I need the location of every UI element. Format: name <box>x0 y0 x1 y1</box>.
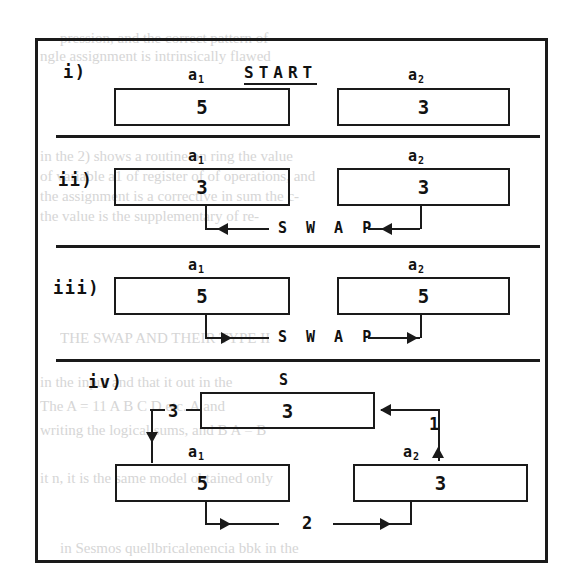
step2-arrowhead-right <box>380 518 391 530</box>
swap-iii-caption: S W A P <box>278 328 376 346</box>
var-label-iii-a2-base: a <box>408 256 418 274</box>
var-label-ii-a1-base: a <box>188 147 198 165</box>
panel-label-iv: iv) <box>88 372 123 392</box>
box-iv-a2: 3 <box>353 464 528 502</box>
step2-vline-left <box>205 502 207 524</box>
box-i-a1-value: 5 <box>116 96 288 118</box>
var-label-ii-a1-sub: 1 <box>198 155 205 166</box>
var-label-iv-S: S <box>279 371 289 389</box>
diagram-stage: i) a1 START a2 5 3 ii) a1 a2 3 3 S W A P… <box>0 0 579 587</box>
swap-ii-left-run <box>205 228 269 230</box>
box-ii-a2-value: 3 <box>339 176 508 198</box>
swap-iii-left-drop <box>205 315 207 338</box>
var-label-iv-a1: a1 <box>188 443 204 461</box>
var-label-ii-a2-sub: 2 <box>418 155 425 166</box>
var-label-i-a2-base: a <box>408 66 418 84</box>
swap-iii-right-drop <box>420 315 422 338</box>
panel-label-ii: ii) <box>58 170 93 190</box>
var-label-iii-a1: a1 <box>188 256 204 274</box>
panel-label-i: i) <box>63 62 86 82</box>
step3-hline-near-S <box>186 409 201 411</box>
box-iii-a2-value: 5 <box>339 285 508 307</box>
swap-ii-left-drop <box>205 206 207 229</box>
step-number-1: 1 <box>429 414 439 434</box>
box-iv-a1: 5 <box>115 464 290 502</box>
step2-vline-right <box>410 502 412 524</box>
var-label-iii-a2-sub: 2 <box>418 264 425 275</box>
box-ii-a2: 3 <box>337 168 510 206</box>
swap-iii-right-arrowhead <box>407 332 418 344</box>
var-label-iv-S-base: S <box>279 371 289 389</box>
box-ii-a1: 3 <box>114 168 290 206</box>
box-i-a2: 3 <box>337 88 510 126</box>
var-label-iv-a2: a2 <box>403 443 419 461</box>
var-label-iii-a1-sub: 1 <box>198 264 205 275</box>
box-iii-a1: 5 <box>114 277 290 315</box>
divider-i-ii <box>56 135 540 138</box>
var-label-i-a2: a2 <box>408 66 424 84</box>
box-iii-a1-value: 5 <box>116 285 288 307</box>
swap-ii-right-drop <box>420 206 422 229</box>
step1-arrowhead-left <box>380 404 391 416</box>
box-ii-a1-value: 3 <box>116 176 288 198</box>
step3-arrowhead-down <box>146 432 158 443</box>
swap-ii-right-run <box>368 228 420 230</box>
swap-iii-left-arrowhead <box>221 332 232 344</box>
var-label-iv-a1-sub: 1 <box>198 451 205 462</box>
var-label-iv-a2-base: a <box>403 443 413 461</box>
step-number-3: 3 <box>168 401 178 421</box>
swap-ii-left-arrowhead <box>217 223 228 235</box>
var-label-iv-a1-base: a <box>188 443 198 461</box>
var-label-ii-a2: a2 <box>408 147 424 165</box>
start-caption: START <box>244 63 317 85</box>
box-iv-a2-value: 3 <box>355 472 526 494</box>
box-iv-S: 3 <box>200 392 375 429</box>
var-label-i-a2-sub: 2 <box>418 74 425 85</box>
panel-label-iii: iii) <box>53 278 100 298</box>
step-number-2: 2 <box>302 513 312 533</box>
var-label-i-a1: a1 <box>188 66 204 84</box>
var-label-iii-a2: a2 <box>408 256 424 274</box>
var-label-iii-a1-base: a <box>188 256 198 274</box>
var-label-i-a1-sub: 1 <box>198 74 205 85</box>
swap-ii-right-arrowhead <box>381 223 392 235</box>
divider-ii-iii <box>56 245 540 248</box>
box-i-a2-value: 3 <box>339 96 508 118</box>
step2-hline-right <box>333 523 412 525</box>
box-iv-S-value: 3 <box>202 399 373 421</box>
box-iv-a1-value: 5 <box>117 472 288 494</box>
step2-hline-left <box>205 523 279 525</box>
box-iii-a2: 5 <box>337 277 510 315</box>
box-i-a1: 5 <box>114 88 290 126</box>
divider-iii-iv <box>56 359 540 362</box>
var-label-ii-a2-base: a <box>408 147 418 165</box>
var-label-ii-a1: a1 <box>188 147 204 165</box>
swap-iii-left-run <box>205 337 269 339</box>
var-label-i-a1-base: a <box>188 66 198 84</box>
step2-arrowhead-left <box>220 518 231 530</box>
swap-ii-caption: S W A P <box>278 219 376 237</box>
var-label-iv-a2-sub: 2 <box>413 451 420 462</box>
